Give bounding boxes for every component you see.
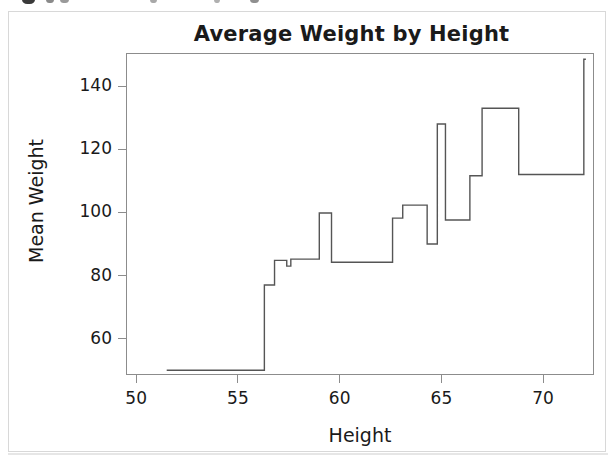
step-line-series [167,59,586,370]
x-tick-label: 65 [418,388,464,408]
x-tick-mark [441,375,442,383]
y-tick-label: 60 [66,328,112,348]
y-tick-label: 120 [66,138,112,158]
x-tick-label: 70 [520,388,566,408]
y-tick-mark [118,338,126,339]
y-axis-label: Mean Weight [25,121,47,281]
y-tick-label: 80 [66,265,112,285]
chart-title-text: Average Weight by Height [194,22,510,46]
y-tick-mark [118,212,126,213]
y-tick-mark [118,149,126,150]
chart-title: Average Weight by Height [0,22,615,46]
y-tick-mark [118,86,126,87]
x-tick-mark [339,375,340,383]
step-plot-svg [126,53,594,375]
x-tick-mark [543,375,544,383]
x-tick-label: 60 [317,388,363,408]
x-tick-label: 55 [215,388,261,408]
x-axis-label: Height [126,424,594,446]
y-tick-label: 140 [66,75,112,95]
x-tick-mark [136,375,137,383]
x-tick-label: 50 [113,388,159,408]
y-tick-label: 100 [66,201,112,221]
chart-figure: Average Weight by Height Mean Weight 608… [0,0,615,472]
x-tick-mark [237,375,238,383]
y-tick-mark [118,275,126,276]
